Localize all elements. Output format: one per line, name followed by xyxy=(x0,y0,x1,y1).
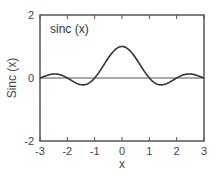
x-axis-label: x xyxy=(119,157,125,171)
y-axis-label: Sinc (x) xyxy=(5,58,19,99)
y-tick-label: -2 xyxy=(24,135,34,147)
y-tick-label: 0 xyxy=(28,72,34,84)
sinc-chart: -3-2-10123-202 sinc (x) x Sinc (x) xyxy=(0,0,219,179)
x-tick-label: 2 xyxy=(174,145,180,157)
legend-label: sinc (x) xyxy=(50,22,89,36)
x-tick-label: -2 xyxy=(62,145,72,157)
x-tick-label: 0 xyxy=(119,145,125,157)
x-tick-label: 1 xyxy=(146,145,152,157)
x-tick-label: -3 xyxy=(35,145,45,157)
y-tick-label: 2 xyxy=(28,9,34,21)
x-tick-label: 3 xyxy=(201,145,207,157)
x-tick-label: -1 xyxy=(90,145,100,157)
sinc-curve xyxy=(40,47,204,85)
